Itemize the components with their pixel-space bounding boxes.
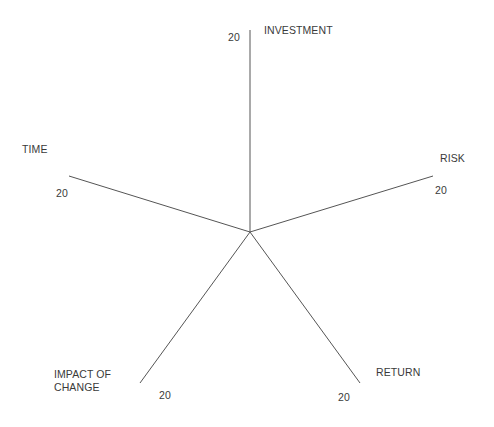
max-label-investment: 20 — [228, 31, 240, 44]
axis-label-risk: RISK — [440, 152, 465, 165]
axis-label-impact-line1: IMPACT OF — [54, 368, 111, 381]
axis-label-return: RETURN — [376, 366, 420, 379]
axis-label-investment: INVESTMENT — [264, 24, 333, 37]
max-label-impact-of-change: 20 — [159, 389, 171, 402]
axis-risk — [250, 176, 433, 232]
axis-impact-of-change — [140, 232, 250, 383]
axis-label-impact-line2: CHANGE — [54, 381, 111, 394]
axis-label-time: TIME — [22, 143, 47, 156]
max-label-time: 20 — [56, 187, 68, 200]
max-label-return: 20 — [338, 391, 350, 404]
axis-return — [250, 232, 360, 383]
radar-axes — [0, 0, 494, 427]
axis-time — [69, 176, 250, 232]
max-label-risk: 20 — [435, 184, 447, 197]
axis-label-impact-of-change: IMPACT OF CHANGE — [54, 368, 111, 394]
